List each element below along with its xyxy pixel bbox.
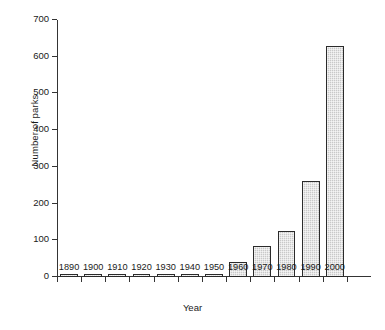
x-axis-title: Year [0, 302, 385, 313]
x-tick [178, 277, 179, 282]
x-tick [202, 277, 203, 282]
x-tick [154, 277, 155, 282]
y-tick-label: 200 [33, 197, 49, 208]
x-tick-label: 1930 [155, 262, 175, 272]
bar [84, 274, 102, 277]
bar [205, 274, 223, 277]
y-tick-label: 0 [44, 270, 49, 281]
bar [157, 274, 175, 277]
x-tick [129, 277, 130, 282]
x-tick [299, 277, 300, 282]
y-tick-label: 700 [33, 13, 49, 24]
x-tick [57, 277, 58, 282]
x-tick [250, 277, 251, 282]
x-tick-label: 2000 [325, 262, 345, 272]
bar [133, 274, 151, 277]
x-tick [323, 277, 324, 282]
x-tick [274, 277, 275, 282]
x-tick-label: 1990 [300, 262, 320, 272]
y-tick-label: 400 [33, 123, 49, 134]
x-tick-label: 1890 [59, 262, 79, 272]
y-tick: 100 [52, 239, 57, 240]
x-tick [105, 277, 106, 282]
x-tick-label: 1900 [83, 262, 103, 272]
bar [108, 274, 126, 277]
x-tick [347, 277, 348, 282]
x-tick-label: 1980 [276, 262, 296, 272]
y-tick-label: 500 [33, 86, 49, 97]
x-tick-label: 1970 [252, 262, 272, 272]
x-tick [226, 277, 227, 282]
y-tick-label: 300 [33, 160, 49, 171]
x-tick-label: 1910 [107, 262, 127, 272]
y-axis-line [57, 20, 58, 277]
y-tick: 700 [52, 19, 57, 20]
bar-chart: Number of parks 0100200300400500600700 1… [0, 0, 385, 330]
bar [60, 274, 78, 277]
y-tick-label: 600 [33, 50, 49, 61]
x-tick-label: 1940 [180, 262, 200, 272]
bar [326, 46, 344, 277]
y-tick: 500 [52, 92, 57, 93]
bar [181, 274, 199, 277]
plot-area: 0100200300400500600700 [57, 20, 371, 277]
x-tick-label: 1920 [131, 262, 151, 272]
y-tick: 600 [52, 56, 57, 57]
y-tick-label: 100 [33, 233, 49, 244]
x-tick-label: 1950 [204, 262, 224, 272]
y-tick: 400 [52, 129, 57, 130]
x-tick [81, 277, 82, 282]
y-tick: 200 [52, 203, 57, 204]
y-tick: 300 [52, 166, 57, 167]
x-tick-label: 1960 [228, 262, 248, 272]
